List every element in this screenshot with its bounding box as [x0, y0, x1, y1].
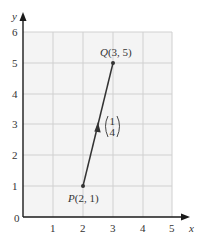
svg-text:6: 6 [12, 26, 18, 38]
y-tick-labels: 1 2 3 4 5 6 [12, 26, 18, 192]
svg-text:4: 4 [140, 222, 146, 234]
point-p [81, 184, 85, 188]
svg-text:5: 5 [12, 57, 18, 69]
svg-text:3: 3 [110, 222, 116, 234]
y-axis-arrow-icon [20, 12, 27, 21]
x-axis-label: x [188, 222, 194, 234]
svg-text:3: 3 [12, 118, 18, 130]
coordinate-diagram: x y 0 1 2 3 4 5 1 2 3 4 5 6 P(2, 1) Q(3,… [0, 0, 197, 239]
svg-text:1: 1 [12, 180, 18, 192]
svg-text:2: 2 [12, 149, 18, 161]
svg-text:1: 1 [50, 222, 56, 234]
point-q-label: Q(3, 5) [100, 46, 132, 59]
svg-text:5: 5 [169, 222, 175, 234]
x-axis-arrow-icon [181, 214, 190, 221]
x-tick-labels: 1 2 3 4 5 [50, 222, 175, 234]
point-q [111, 61, 115, 65]
svg-text:2: 2 [80, 222, 86, 234]
point-p-label: P(2, 1) [67, 192, 99, 205]
svg-text:4: 4 [110, 126, 116, 138]
origin-label: 0 [14, 212, 20, 224]
y-axis-label: y [11, 10, 17, 22]
svg-text:4: 4 [12, 88, 18, 100]
